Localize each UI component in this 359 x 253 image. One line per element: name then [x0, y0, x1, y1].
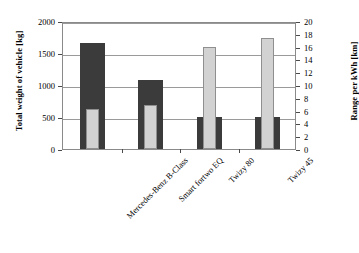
- y-axis-right-tick-label: 16: [304, 44, 328, 53]
- y-axis-right-tick-label: 18: [304, 31, 328, 40]
- y-axis-left-tick: [58, 86, 62, 87]
- x-axis-category-label: Mercedes-Benz B-Class: [125, 156, 190, 221]
- y-axis-left-tick: [58, 150, 62, 151]
- plot-area: [62, 22, 296, 150]
- y-axis-right-tick-label: 6: [304, 108, 328, 117]
- y-axis-left-tick-label: 0: [14, 146, 55, 155]
- y-axis-right-tick-label: 10: [304, 82, 328, 91]
- y-axis-right-tick-label: 14: [304, 56, 328, 65]
- y-axis-right-tick: [296, 48, 300, 49]
- x-axis-category-label: Twizy 80: [228, 156, 257, 185]
- bar-range: [86, 109, 99, 149]
- x-axis-tick: [239, 149, 240, 153]
- y-axis-left-tick-label: 1500: [14, 50, 55, 59]
- y-axis-right-tick-label: 12: [304, 69, 328, 78]
- y-axis-left-tick-label: 500: [14, 114, 55, 123]
- y-axis-right-tick-label: 4: [304, 120, 328, 129]
- x-axis-category-label: Twizy 45: [286, 156, 315, 185]
- y-axis-right-tick: [296, 124, 300, 125]
- y-axis-right-tick-label: 20: [304, 18, 328, 27]
- y-axis-right-tick: [296, 35, 300, 36]
- y-axis-right-tick: [296, 137, 300, 138]
- y-axis-right-tick-label: 8: [304, 95, 328, 104]
- bar-range: [261, 38, 274, 149]
- y-axis-right-tick: [296, 150, 300, 151]
- y-axis-left-tick: [58, 22, 62, 23]
- bar-range: [144, 105, 157, 149]
- y-axis-right-tick-label: 2: [304, 133, 328, 142]
- y-axis-right-tick: [296, 112, 300, 113]
- y-axis-left-tick-label: 2000: [14, 18, 55, 27]
- y-axis-right-title: Range per kWh [km]: [349, 11, 359, 151]
- y-axis-left-tick-label: 1000: [14, 82, 55, 91]
- y-axis-right-tick: [296, 86, 300, 87]
- x-axis-tick: [180, 149, 181, 153]
- y-axis-right-tick: [296, 22, 300, 23]
- y-axis-right-tick-label: 0: [304, 146, 328, 155]
- bar-range: [203, 47, 216, 149]
- y-axis-left-tick: [58, 54, 62, 55]
- gridline: [63, 23, 295, 24]
- y-axis-right-tick: [296, 99, 300, 100]
- y-axis-left-tick: [58, 118, 62, 119]
- y-axis-left-title: Total weight of vehicle [kg]: [14, 11, 24, 151]
- y-axis-right-tick: [296, 73, 300, 74]
- x-axis-tick: [122, 149, 123, 153]
- y-axis-right-tick: [296, 60, 300, 61]
